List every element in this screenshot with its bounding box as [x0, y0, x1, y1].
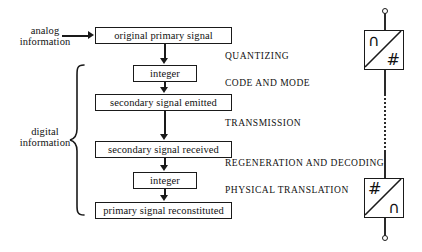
flow-box-label: original primary signal [114, 30, 213, 41]
transmission-dotted-link [384, 98, 386, 148]
adc-digital-glyph-icon: # [387, 52, 400, 68]
flow-box-label: secondary signal emitted [110, 97, 217, 108]
digital-information-brace [68, 63, 88, 221]
annotation-analog-line2: information [6, 36, 84, 47]
adc-symbol: ∩ # [364, 30, 404, 70]
analog-arrow-head-icon [88, 31, 94, 39]
flow-box-original-primary-signal: original primary signal [95, 27, 232, 44]
stage-label-code-and-mode: CODE AND MODE [225, 79, 310, 89]
dac-terminal-dot-icon [382, 235, 388, 241]
link-lead-upper [384, 70, 386, 96]
flow-arrow-shaft-3 [164, 111, 166, 136]
adc-top-lead [384, 13, 386, 31]
flow-arrow-shaft-1 [164, 44, 166, 59]
link-lead-lower [384, 150, 386, 178]
stage-label-transmission: TRANSMISSION [225, 119, 301, 129]
dac-digital-glyph-icon: # [368, 181, 381, 197]
stage-label-quantizing: QUANTIZING [225, 52, 289, 62]
flow-arrow-head-icon-1 [160, 58, 168, 64]
flow-arrow-head-icon-4 [160, 165, 168, 171]
flow-box-integer-top: integer [133, 65, 197, 82]
flow-box-label: integer [150, 175, 180, 186]
dac-bottom-lead [384, 218, 386, 236]
flow-arrow-head-icon-3 [160, 134, 168, 140]
stage-label-regeneration-and-decoding: REGENERATION AND DECODING [225, 159, 384, 169]
dac-symbol: # ∩ [364, 178, 404, 218]
stage-label-physical-translation: PHYSICAL TRANSLATION [225, 186, 349, 196]
adc-analog-glyph-icon: ∩ [368, 33, 380, 49]
flow-box-secondary-signal-emitted: secondary signal emitted [95, 94, 232, 111]
dac-analog-glyph-icon: ∩ [388, 200, 400, 216]
flow-box-label: primary signal reconstituted [103, 205, 224, 216]
figure-canvas: analog information digital information o… [0, 0, 422, 252]
flow-arrow-head-icon-2 [160, 87, 168, 93]
flow-box-primary-signal-reconstituted: primary signal reconstituted [95, 202, 232, 219]
flow-arrow-head-icon-5 [160, 195, 168, 201]
flow-box-label: integer [150, 68, 180, 79]
flow-box-label: secondary signal received [108, 144, 219, 155]
flow-box-integer-bottom: integer [133, 172, 197, 189]
analog-arrow-shaft [62, 35, 90, 37]
flow-box-secondary-signal-received: secondary signal received [95, 141, 232, 158]
